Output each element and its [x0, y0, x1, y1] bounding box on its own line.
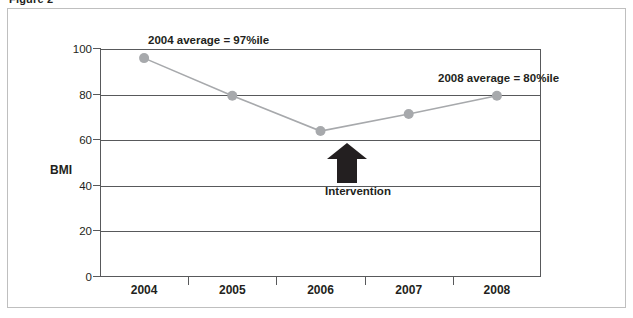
data-point-marker	[492, 91, 502, 101]
y-tick-label: 60	[79, 134, 92, 146]
x-tick-label: 2005	[188, 283, 276, 301]
y-tick-label: 40	[79, 180, 92, 192]
annotation-2004-average: 2004 average = 97%ile	[148, 34, 269, 46]
data-point-marker	[227, 91, 237, 101]
intervention-label: Intervention	[308, 185, 408, 197]
x-tick-label: 2006	[276, 283, 364, 301]
x-axis-labels: 20042005200620072008	[100, 283, 541, 301]
data-point-marker	[139, 53, 149, 63]
x-tick-label: 2008	[453, 283, 541, 301]
y-axis-title: BMI	[50, 163, 72, 177]
figure-caption: Figure 2	[9, 0, 53, 5]
x-tick-label: 2004	[100, 283, 188, 301]
y-tick-label: 100	[73, 43, 92, 55]
x-tick-label: 2007	[365, 283, 453, 301]
bmi-line-chart: 100806040200 BMI Intervention 2004200520…	[8, 9, 627, 309]
annotation-2008-average: 2008 average = 80%ile	[438, 72, 559, 84]
y-tick-label: 0	[86, 271, 92, 283]
data-point-marker	[316, 126, 326, 136]
data-point-marker	[404, 109, 414, 119]
series-line	[144, 58, 497, 131]
intervention-arrow-icon	[326, 142, 368, 184]
y-tick-label: 20	[79, 225, 92, 237]
y-tick-label: 80	[79, 89, 92, 101]
figure-panel: 100806040200 BMI Intervention 2004200520…	[7, 8, 626, 308]
